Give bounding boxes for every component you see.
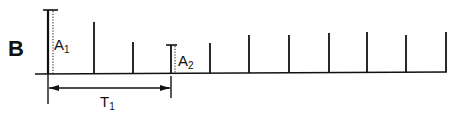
arrowhead-left-icon bbox=[49, 85, 59, 91]
diagram-canvas: B A1 A2 T1 bbox=[0, 0, 458, 116]
spike-train-diagram: B A1 A2 T1 bbox=[0, 0, 458, 116]
arrowhead-right-icon bbox=[160, 85, 170, 91]
interval-t1-annotation: T1 bbox=[48, 74, 171, 112]
a1-label: A1 bbox=[54, 36, 70, 55]
t1-label: T1 bbox=[100, 93, 115, 112]
baseline-line bbox=[35, 72, 447, 74]
panel-label: B bbox=[8, 36, 24, 61]
spike-train bbox=[48, 10, 446, 74]
a2-label: A2 bbox=[178, 52, 194, 71]
baseline bbox=[35, 72, 447, 74]
